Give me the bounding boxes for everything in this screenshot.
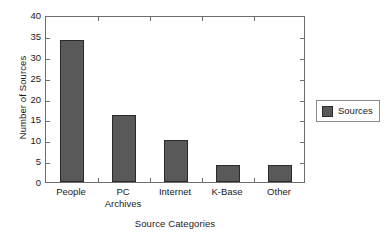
x-axis-tick-label: Internet [149,186,201,198]
x-axis-title: Source Categories [45,218,305,229]
y-axis-tick-label: 20 [20,95,41,105]
x-axis-tick-label: People [45,186,97,198]
bar[interactable] [112,115,136,182]
y-axis-tick-label: 10 [20,137,41,147]
legend-swatch-sources [322,106,333,117]
x-axis-tick-label: PC Archives [97,186,149,209]
y-axis-tick-labels: 0510152025303540 [20,16,41,183]
y-axis-tick-label: 5 [20,157,41,167]
y-axis-tick-label: 0 [20,178,41,188]
plot-area [45,16,305,183]
legend-label-sources: Sources [338,106,373,116]
y-axis-tick-label: 30 [20,53,41,63]
bars-layer [46,17,304,182]
bar[interactable] [164,140,188,182]
bar[interactable] [216,165,240,182]
y-axis-tick-label: 35 [20,32,41,42]
bar[interactable] [60,40,84,182]
x-axis-tick-label: Other [253,186,305,198]
x-axis-tick-labels: PeoplePC ArchivesInternetK-BaseOther [45,186,305,216]
x-axis-tick-label: K-Base [201,186,253,198]
bar-chart: Number of Sources 0510152025303540 Peopl… [0,0,388,241]
y-axis-tick-label: 40 [20,11,41,21]
y-axis-tick-label: 15 [20,116,41,126]
legend[interactable]: Sources [316,100,380,122]
bar[interactable] [268,165,292,182]
y-axis-tick-label: 25 [20,74,41,84]
